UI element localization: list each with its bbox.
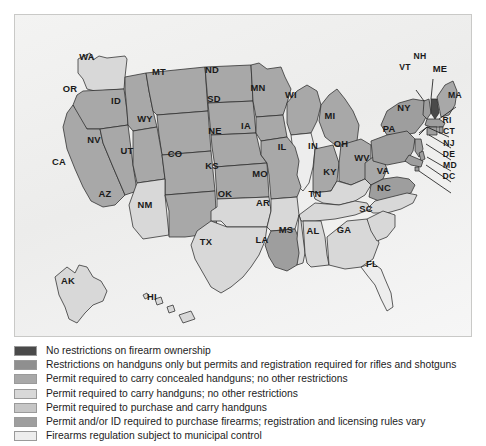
state-label-tx: TX: [200, 236, 213, 247]
state-dc[interactable]: [415, 167, 419, 171]
state-label-ma: MA: [448, 90, 462, 100]
state-label-pa: PA: [383, 123, 396, 134]
state-label-wy: WY: [137, 113, 153, 124]
legend-swatch-5: [14, 403, 37, 413]
state-ia[interactable]: [256, 115, 287, 141]
state-label-ut: UT: [121, 145, 134, 156]
state-ak[interactable]: [55, 265, 107, 323]
state-label-mo: MO: [252, 168, 268, 179]
state-label-ks: KS: [205, 160, 218, 171]
state-label-la: LA: [256, 234, 269, 245]
state-vt[interactable]: [423, 99, 431, 119]
state-label-de: DE: [443, 149, 455, 159]
state-label-ny: NY: [397, 102, 411, 113]
state-label-va: VA: [377, 165, 390, 176]
state-label-mn: MN: [251, 82, 266, 93]
us-choropleth-map: WAORIDMTNDSDMNWIMIWYNEIANVUTCOILINOHCAKS…: [15, 15, 471, 336]
legend-row: Firearms regulation subject to municipal…: [14, 429, 472, 443]
state-label-in: IN: [308, 140, 318, 151]
state-ne[interactable]: [211, 133, 267, 167]
state-label-me: ME: [433, 63, 447, 74]
legend-row: Permit required to carry handguns; no ot…: [14, 387, 472, 401]
state-label-ms: MS: [279, 224, 293, 235]
state-label-or: OR: [63, 83, 77, 94]
state-label-md: MD: [443, 160, 457, 170]
leader-line-nh: [431, 79, 433, 99]
states-layer: [55, 53, 457, 323]
leader-arrow-ri2: [419, 127, 427, 133]
state-label-dc: DC: [443, 171, 456, 181]
state-label-ky: KY: [323, 166, 337, 177]
legend-row: Permit and/or ID required to purchase fi…: [14, 415, 472, 429]
legend-swatch-4: [14, 389, 37, 399]
state-label-hi: HI: [147, 291, 157, 302]
state-label-id: ID: [111, 95, 121, 106]
state-label-fl: FL: [366, 258, 378, 269]
state-label-nj: NJ: [443, 138, 454, 148]
legend-row: Restrictions on handguns only but permit…: [14, 358, 472, 372]
state-label-al: AL: [307, 225, 320, 236]
state-label-co: CO: [168, 148, 182, 159]
state-label-az: AZ: [99, 188, 112, 199]
legend-row: Permit required to purchase and carry ha…: [14, 401, 472, 415]
legend-swatch-3: [14, 374, 37, 384]
legend-label-1: No restrictions on firearm ownership: [46, 346, 211, 356]
map-frame: WAORIDMTNDSDMNWIMIWYNEIANVUTCOILINOHCAKS…: [14, 14, 472, 337]
legend-swatch-6: [14, 417, 37, 427]
state-label-ca: CA: [52, 156, 66, 167]
state-wy[interactable]: [157, 111, 211, 155]
state-label-ct: CT: [443, 126, 455, 136]
state-label-wa: WA: [79, 51, 95, 62]
legend-label-5: Permit required to purchase and carry ha…: [46, 403, 267, 413]
state-label-wi: WI: [285, 89, 297, 100]
legend-row: Permit required to carry concealed handg…: [14, 372, 472, 386]
state-label-nm: NM: [138, 199, 153, 210]
state-label-ar: AR: [256, 197, 270, 208]
legend-label-6: Permit and/or ID required to purchase fi…: [46, 417, 425, 427]
state-label-wv: WV: [354, 152, 370, 163]
state-label-mt: MT: [152, 66, 166, 77]
state-label-ia: IA: [241, 120, 251, 131]
state-label-ga: GA: [337, 224, 351, 235]
legend-label-7: Firearms regulation subject to municipal…: [46, 431, 262, 441]
state-label-oh: OH: [334, 138, 348, 149]
state-label-ok: OK: [218, 188, 232, 199]
state-label-nv: NV: [87, 134, 101, 145]
state-label-tn: TN: [309, 188, 322, 199]
legend-swatch-7: [14, 431, 37, 441]
state-label-mi: MI: [325, 110, 336, 121]
state-label-vt: VT: [399, 62, 411, 72]
legend-label-3: Permit required to carry concealed handg…: [46, 374, 348, 384]
state-label-ne: NE: [208, 125, 221, 136]
state-label-ak: AK: [61, 275, 75, 286]
state-label-sd: SD: [207, 93, 220, 104]
state-label-nc: NC: [377, 182, 391, 193]
state-label-ri: RI: [443, 115, 452, 125]
legend-row: No restrictions on firearm ownership: [14, 344, 472, 358]
legend-label-4: Permit required to carry handguns; no ot…: [46, 389, 298, 399]
state-label-il: IL: [278, 141, 287, 152]
state-tx[interactable]: [191, 221, 267, 293]
state-fl[interactable]: [361, 263, 393, 311]
state-label-nd: ND: [205, 64, 219, 75]
legend-swatch-1: [14, 346, 37, 356]
legend-swatch-2: [14, 360, 37, 370]
legend: No restrictions on firearm ownershipRest…: [14, 344, 472, 443]
legend-label-2: Restrictions on handguns only but permit…: [46, 360, 456, 370]
state-label-nh: NH: [414, 51, 427, 61]
state-label-sc: SC: [359, 203, 372, 214]
